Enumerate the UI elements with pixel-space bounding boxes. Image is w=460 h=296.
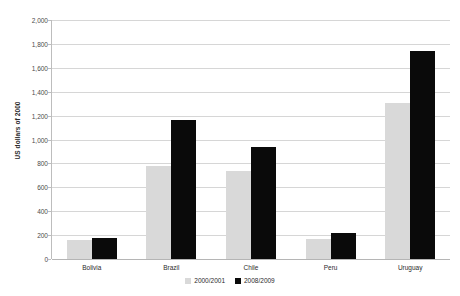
x-tick-label: Bolivia <box>52 264 132 271</box>
bar-group <box>52 20 132 259</box>
x-tick-label: Uruguay <box>370 264 450 271</box>
y-tick-label: 1,000 <box>0 136 48 143</box>
bar-group <box>211 20 291 259</box>
bar <box>67 240 92 259</box>
bar <box>226 171 251 259</box>
plot-area <box>52 20 450 259</box>
chart-legend: 2000/20012008/2009 <box>0 277 460 284</box>
bar <box>410 51 435 259</box>
legend-item[interactable]: 2000/2001 <box>185 277 225 284</box>
y-tick-label: 200 <box>0 232 48 239</box>
bar-group <box>132 20 212 259</box>
legend-swatch <box>235 278 241 284</box>
bar-group <box>370 20 450 259</box>
x-tick-label: Peru <box>291 264 371 271</box>
legend-swatch <box>185 278 191 284</box>
bar <box>385 103 410 259</box>
axis-line-zero <box>52 259 450 260</box>
y-tick-label: 600 <box>0 184 48 191</box>
y-tick-label: 1,800 <box>0 40 48 47</box>
y-axis-title-text: US dollars of 2000 <box>14 101 21 159</box>
y-tick-label: 400 <box>0 208 48 215</box>
legend-label: 2008/2009 <box>244 277 275 284</box>
y-tick-label: 0 <box>0 256 48 263</box>
bar <box>306 239 331 259</box>
y-tick-label: 2,000 <box>0 17 48 24</box>
legend-item[interactable]: 2008/2009 <box>235 277 275 284</box>
bar <box>251 147 276 259</box>
bar <box>331 233 356 259</box>
x-tick-label: Brazil <box>132 264 212 271</box>
legend-label: 2000/2001 <box>194 277 225 284</box>
bar <box>171 120 196 259</box>
bar <box>92 238 117 260</box>
y-tick-label: 800 <box>0 160 48 167</box>
bar-chart: US dollars of 2000 2,0001,8001,6001,4001… <box>0 0 460 296</box>
y-tick-mark <box>48 259 51 260</box>
bar-group <box>291 20 371 259</box>
y-tick-label: 1,200 <box>0 112 48 119</box>
bar <box>146 166 171 259</box>
y-tick-label: 1,600 <box>0 64 48 71</box>
y-tick-label: 1,400 <box>0 88 48 95</box>
x-tick-label: Chile <box>211 264 291 271</box>
y-axis-title: US dollars of 2000 <box>9 0 25 260</box>
